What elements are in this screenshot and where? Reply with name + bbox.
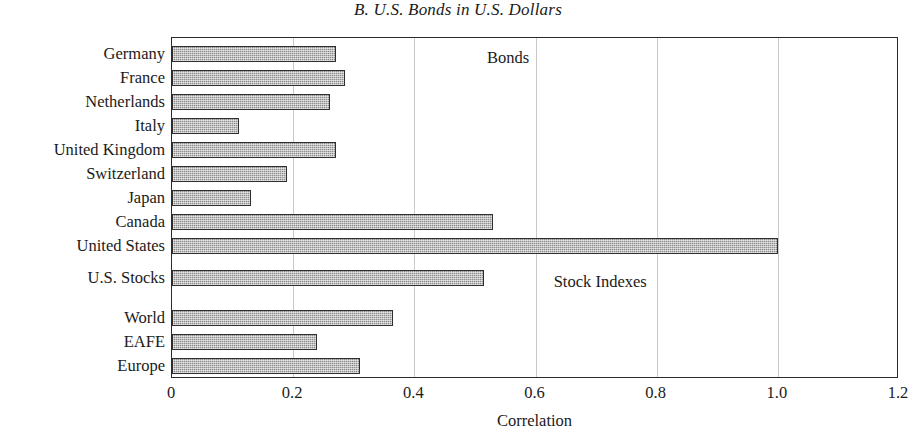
category-label: United Kingdom: [0, 142, 165, 158]
plot-annotation: Stock Indexes: [554, 272, 647, 292]
x-tick-label: 0.2: [262, 383, 322, 403]
category-label: France: [0, 70, 165, 86]
x-tick-label: 0: [141, 383, 201, 403]
category-label: Switzerland: [0, 166, 165, 182]
category-label: U.S. Stocks: [0, 270, 165, 286]
chart-figure: B. U.S. Bonds in U.S. Dollars BondsStock…: [0, 0, 916, 441]
gridline: [293, 38, 294, 377]
bar: [172, 142, 336, 158]
bar: [172, 310, 393, 326]
category-label: Canada: [0, 214, 165, 230]
bar: [172, 46, 336, 62]
bar: [172, 190, 251, 206]
x-tick-label: 1.0: [747, 383, 807, 403]
category-label: Europe: [0, 358, 165, 374]
category-label: Japan: [0, 190, 165, 206]
bar: [172, 270, 484, 286]
bar: [172, 358, 360, 374]
bar: [172, 214, 493, 230]
bar: [172, 334, 317, 350]
chart-title: B. U.S. Bonds in U.S. Dollars: [0, 0, 916, 20]
x-tick-label: 0.4: [383, 383, 443, 403]
category-label: World: [0, 310, 165, 326]
gridline: [414, 38, 415, 377]
gridline: [536, 38, 537, 377]
bar: [172, 118, 239, 134]
bar: [172, 94, 330, 110]
bar: [172, 166, 287, 182]
category-label: United States: [0, 238, 165, 254]
bar: [172, 70, 345, 86]
gridline: [657, 38, 658, 377]
x-tick-label: 1.2: [868, 383, 916, 403]
bar: [172, 238, 778, 254]
x-tick-label: 0.6: [505, 383, 565, 403]
gridline: [778, 38, 779, 377]
category-label: Netherlands: [0, 94, 165, 110]
plot-annotation: Bonds: [487, 48, 529, 68]
category-label: Italy: [0, 118, 165, 134]
x-axis-title: Correlation: [171, 411, 898, 431]
plot-area: BondsStock Indexes: [171, 37, 898, 378]
category-label: EAFE: [0, 334, 165, 350]
x-tick-label: 0.8: [626, 383, 686, 403]
category-label: Germany: [0, 46, 165, 62]
category-axis-labels: GermanyFranceNetherlandsItalyUnited King…: [0, 37, 171, 378]
